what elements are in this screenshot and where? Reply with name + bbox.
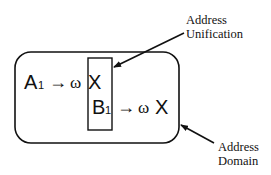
address-unification-box bbox=[88, 58, 112, 130]
rule-a: A 1 → ω X bbox=[24, 71, 101, 93]
address-domain-label-line2: Domain bbox=[218, 154, 259, 168]
rule-a-omega: ω bbox=[70, 73, 81, 92]
domain-pointer-arrow bbox=[181, 125, 214, 143]
rule-a-symbol: A bbox=[24, 71, 38, 93]
rule-b-omega: ω bbox=[138, 98, 149, 117]
rule-a-subscript: 1 bbox=[38, 79, 44, 91]
address-unification-label-line2: Unification bbox=[186, 27, 244, 41]
rule-b-symbol: B bbox=[92, 96, 105, 118]
address-diagram: A 1 → ω X B 1 → ω X Address Unification … bbox=[0, 0, 271, 175]
rule-a-arrow: → bbox=[49, 72, 67, 92]
rule-b-subscript: 1 bbox=[105, 104, 111, 116]
rule-b: B 1 → ω X bbox=[92, 96, 168, 118]
rule-b-arrow: → bbox=[117, 97, 135, 117]
address-domain-label-line1: Address bbox=[218, 140, 259, 154]
address-unification-label-line1: Address bbox=[186, 13, 227, 27]
rule-b-target: X bbox=[155, 96, 168, 118]
rule-a-target: X bbox=[88, 71, 101, 93]
unification-pointer-arrow bbox=[114, 33, 184, 67]
